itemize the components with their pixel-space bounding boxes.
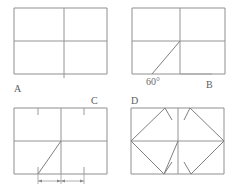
diagram-canvas: A 60° B [0,0,238,196]
panel-c-dim-arrow-mid-right [61,179,65,182]
panel-d-left-upper-stroke [131,108,165,141]
panel-b: 60° B [132,8,225,90]
panel-d-label: D [131,95,138,106]
panel-d-right-lower-stroke [191,141,224,174]
panel-c-dim-arrow-left [38,179,42,182]
panel-c: C [14,95,107,184]
panel-c-diagonal [38,141,61,174]
panel-d-left-lower-stroke [131,141,164,174]
panel-c-label: C [91,95,98,106]
panel-c-dim-arrow-mid-left [57,179,61,182]
panel-d-right-lower-return [184,162,191,174]
panel-b-diagonal [152,41,180,74]
panel-b-label: B [206,79,213,90]
panel-d-right-upper-stroke [190,108,224,141]
panel-b-angle-label: 60° [146,76,160,87]
panel-d-right-upper-return [184,108,190,120]
diagram-sheet: A 60° B [0,0,238,196]
panel-a-label: A [14,83,22,94]
panel-d-left-lower-edge [164,141,178,174]
panel-d-left-upper-return [165,108,172,120]
panel-a: A [14,8,107,94]
panel-c-dim-arrow-right [80,179,84,182]
panel-d: D [131,95,224,174]
